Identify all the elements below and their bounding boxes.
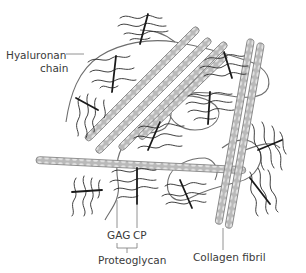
proteoglycan-center-lower (134, 122, 184, 150)
ecm-diagram (0, 0, 306, 273)
proteoglycan-bottom-left (72, 176, 102, 216)
label-proteoglycan: Proteoglycan (98, 254, 166, 266)
label-collagen-fibril: Collagen fibril (193, 251, 266, 263)
proteoglycan-top (118, 14, 168, 44)
label-cp: CP (133, 229, 147, 241)
label-hyaluronan: Hyaluronan (6, 49, 66, 61)
proteoglycan-bottom-center (162, 180, 206, 208)
proteoglycan-upper-left (88, 56, 136, 92)
label-gag: GAG (107, 229, 130, 241)
label-hyaluronan-chain: chain (40, 62, 68, 74)
proteoglycan-right-lower (250, 168, 278, 216)
